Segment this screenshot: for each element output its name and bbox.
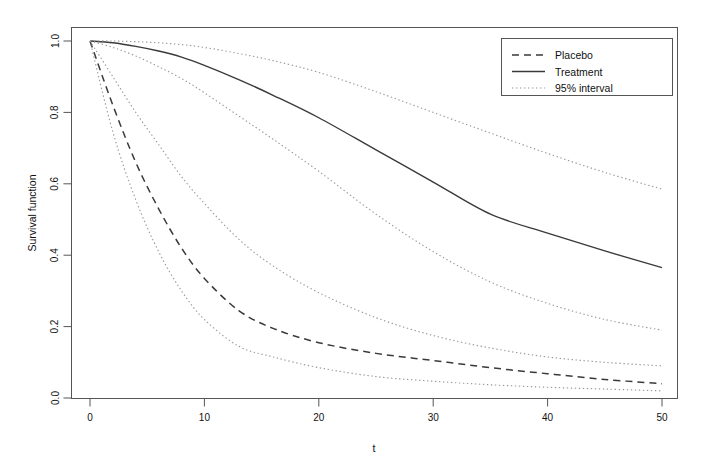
legend-label-placebo: Placebo — [555, 49, 593, 61]
y-tick-label: 0.0 — [50, 391, 61, 405]
y-tick-label: 1.0 — [50, 34, 61, 48]
x-axis-title: t — [373, 442, 376, 454]
chart-figure: 01020304050 0.00.20.40.60.81.0 t Surviva… — [0, 0, 705, 467]
x-tick-label: 50 — [656, 412, 668, 423]
y-tick-label: 0.8 — [50, 105, 61, 119]
x-tick-label: 0 — [87, 412, 93, 423]
y-axis-title: Survival function — [26, 174, 38, 251]
survival-plot: 01020304050 0.00.20.40.60.81.0 t Surviva… — [0, 0, 705, 467]
y-tick-label: 0.4 — [50, 248, 61, 262]
x-tick-label: 20 — [313, 412, 325, 423]
x-tick-label: 10 — [199, 412, 211, 423]
y-tick-label: 0.2 — [50, 319, 61, 333]
legend: PlaceboTreatment95% interval — [502, 39, 673, 96]
y-tick-label: 0.6 — [50, 176, 61, 190]
x-tick-label: 40 — [542, 412, 554, 423]
x-tick-label: 30 — [428, 412, 440, 423]
legend-label-treatment: Treatment — [555, 66, 603, 78]
legend-label-95-interval: 95% interval — [555, 82, 613, 94]
